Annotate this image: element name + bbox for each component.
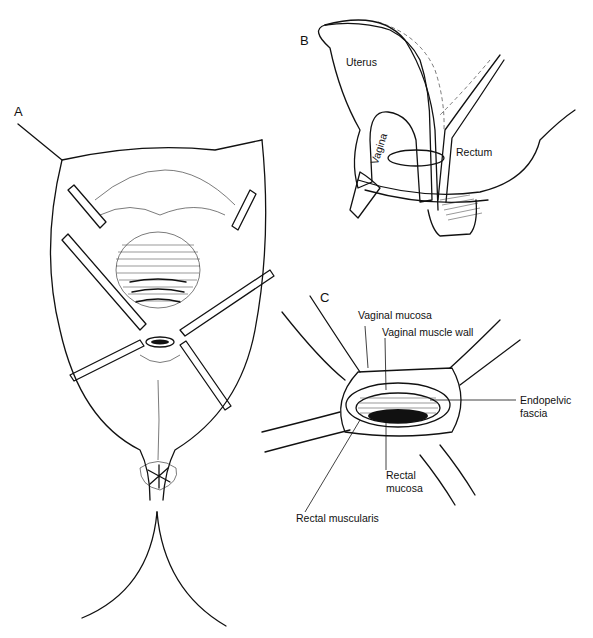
- panel-c-drawing: [0, 0, 593, 638]
- surgical-illustration: A B Uterus Rectum Vagina: [0, 0, 593, 638]
- label-rectal-mucosa-line2: mucosa: [386, 482, 423, 494]
- label-vaginal-mucosa: Vaginal mucosa: [358, 309, 432, 321]
- panel-label-c: C: [320, 292, 329, 304]
- label-endopelvic-fascia-line2: fascia: [520, 407, 547, 419]
- label-rectal-mucosa-line1: Rectal: [386, 469, 416, 481]
- label-vaginal-muscle-wall: Vaginal muscle wall: [382, 326, 473, 338]
- label-rectal-muscularis: Rectal muscularis: [296, 512, 379, 524]
- label-endopelvic-fascia-line1: Endopelvic: [520, 394, 571, 406]
